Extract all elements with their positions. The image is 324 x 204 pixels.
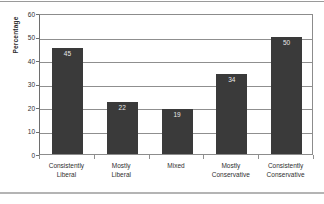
bar: 45: [52, 48, 83, 154]
y-tick-label: 50: [13, 34, 35, 41]
bar-value-label: 45: [52, 50, 83, 58]
x-category-line: Mostly: [94, 161, 149, 170]
x-category-line: Mostly: [203, 161, 258, 170]
bar-value-label: 50: [271, 39, 302, 47]
x-tick-mark: [39, 155, 40, 159]
y-tick-label: 60: [13, 11, 35, 18]
y-tick-label: 40: [13, 58, 35, 65]
x-category-label: ConsistentlyLiberal: [39, 161, 94, 179]
x-tick-mark: [258, 155, 259, 159]
x-category-line: Mixed: [149, 161, 204, 170]
bar-value-label: 22: [107, 104, 138, 112]
x-category-label: ConsistentlyConservative: [258, 161, 313, 179]
x-category-line: Liberal: [39, 170, 94, 179]
x-tick-mark: [149, 155, 150, 159]
figure-bottom-rule: [0, 192, 324, 194]
bar-value-label: 34: [216, 76, 247, 84]
plot-area: 4522193450: [39, 14, 313, 155]
x-category-line: Conservative: [258, 170, 313, 179]
y-tick-label: 10: [13, 128, 35, 135]
bar: 50: [271, 37, 302, 155]
x-tick-mark: [94, 155, 95, 159]
x-category-line: Conservative: [203, 170, 258, 179]
x-category-label: MostlyConservative: [203, 161, 258, 179]
x-category-line: Consistently: [258, 161, 313, 170]
y-tick-label: 20: [13, 105, 35, 112]
x-tick-mark: [313, 155, 314, 159]
x-category-line: Liberal: [94, 170, 149, 179]
bar: 22: [107, 102, 138, 154]
x-category-label: Mixed: [149, 161, 204, 170]
bar: 19: [162, 109, 193, 154]
x-tick-mark: [203, 155, 204, 159]
y-tick-label: 30: [13, 81, 35, 88]
bar: 34: [216, 74, 247, 154]
bar-value-label: 19: [162, 111, 193, 119]
x-category-line: Consistently: [39, 161, 94, 170]
figure-top-rule: [0, 1, 324, 2]
x-category-label: MostlyLiberal: [94, 161, 149, 179]
y-tick-label: 0: [13, 152, 35, 159]
bar-chart-figure: Percentage 0102030405060 4522193450 Cons…: [0, 0, 324, 204]
